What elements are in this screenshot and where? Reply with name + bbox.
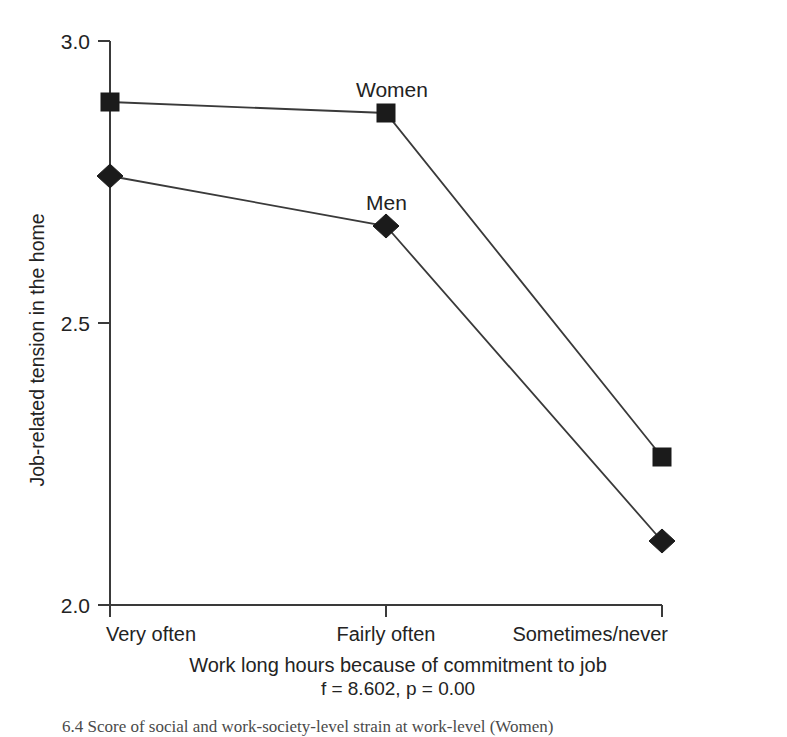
data-point-men-sometimes-never: [649, 529, 675, 553]
y-tick-label-2-5: 2.5: [61, 312, 90, 335]
figure-caption: 6.4 Score of social and work-society-lev…: [62, 717, 762, 737]
series-annotation-men: Men: [366, 191, 407, 214]
y-axis-title: Job-related tension in the home: [26, 213, 48, 486]
line-chart: 3.0 2.5 2.0 Very often Fairly often Some…: [0, 0, 787, 737]
statistics-label: f = 8.602, p = 0.00: [321, 678, 475, 699]
data-point-men-fairly-often: [373, 214, 399, 238]
data-point-women-very-often: [101, 93, 119, 111]
x-category-label-sometimes-never: Sometimes/never: [512, 623, 668, 645]
x-category-label-fairly-often: Fairly often: [337, 623, 436, 645]
data-point-women-fairly-often: [377, 104, 395, 122]
x-category-label-very-often: Very often: [106, 623, 196, 645]
series-annotation-women: Women: [356, 78, 428, 101]
data-point-men-very-often: [97, 164, 123, 188]
x-axis-title: Work long hours because of commitment to…: [189, 654, 607, 676]
series-line-women: [110, 102, 662, 457]
y-tick-label-3-0: 3.0: [61, 30, 90, 53]
figure-container: 3.0 2.5 2.0 Very often Fairly often Some…: [0, 0, 787, 737]
data-point-women-sometimes-never: [653, 448, 671, 466]
y-tick-label-2-0: 2.0: [61, 594, 90, 617]
